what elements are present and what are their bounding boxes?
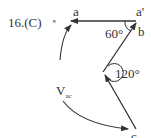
vac-arc-up	[60, 25, 71, 60]
vector-label-sub: ac	[65, 92, 71, 100]
separator-mark: ∘	[52, 17, 56, 26]
angle-label-60: 60°	[105, 27, 123, 40]
angle-label-120: 120°	[115, 67, 140, 80]
angle-arc-60	[125, 21, 131, 31]
vector-label-main: V	[56, 83, 65, 98]
label-point-b: b	[138, 25, 145, 38]
label-point-a-prime: a'	[136, 5, 144, 18]
label-point-c: c	[131, 130, 137, 138]
problem-number: 16.(C)	[8, 16, 42, 29]
label-point-a: a	[73, 5, 79, 18]
vector-label-vac: Vac	[56, 84, 72, 100]
vac-arc-down	[63, 101, 128, 129]
vector-c-to-vertex	[105, 75, 136, 129]
